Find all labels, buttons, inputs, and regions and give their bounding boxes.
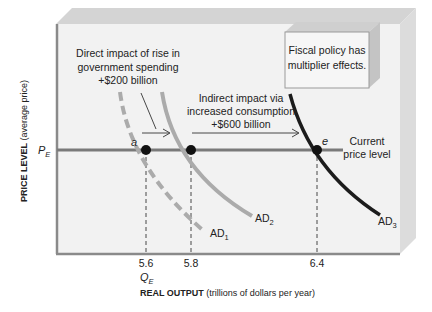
direct-line3: +$200 billion	[98, 74, 157, 86]
x-axis-label: REAL OUTPUT (trillions of dollars per ye…	[140, 288, 315, 298]
direct-line2: government spending	[78, 61, 179, 73]
direct-line1: Direct impact of rise in	[76, 47, 180, 59]
point-e	[312, 145, 322, 155]
y-tick-pe: PE	[38, 144, 51, 159]
point-b	[186, 145, 196, 155]
point-a	[141, 145, 151, 155]
callout-side-bevel	[369, 22, 380, 88]
indirect-line1: Indirect impact via	[199, 92, 284, 104]
x-tick-5-8: 5.8	[184, 257, 199, 269]
x-tick-6-4: 6.4	[310, 257, 325, 269]
price-level-label-line2: price level	[343, 148, 390, 160]
x-tick-5-6: 5.6	[139, 257, 154, 269]
frame-right-bevel	[400, 8, 416, 254]
callout-line1: Fiscal policy has	[288, 44, 365, 56]
y-axis-label: PRICE LEVEL (average price)	[19, 80, 29, 202]
point-a-label: a	[131, 136, 137, 148]
indirect-line2: increased consumption	[187, 105, 295, 117]
callout-line2: multiplier effects.	[288, 59, 367, 71]
point-e-label: e	[322, 135, 328, 147]
chart: Fiscal policy has multiplier effects. a …	[0, 0, 432, 312]
frame-top-bevel	[56, 8, 416, 24]
callout-top-bevel	[285, 22, 380, 32]
x-tick-qe: QE	[140, 271, 155, 286]
price-level-label-line1: Current	[349, 135, 384, 147]
indirect-line3: +$600 billion	[211, 118, 270, 130]
